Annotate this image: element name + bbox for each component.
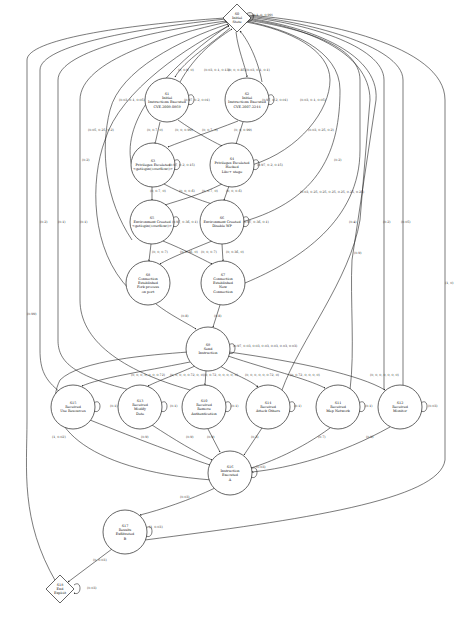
transition-probability-label: (0.7) bbox=[318, 435, 326, 439]
transition-probability-label: (0.9) bbox=[186, 435, 194, 439]
state-label: on port bbox=[142, 290, 155, 294]
transition-probability-label: (0.03) bbox=[87, 586, 97, 590]
transition-probability-label: (0.03, 0.1, 0.13) bbox=[204, 68, 230, 72]
state-label: Use Resources bbox=[60, 409, 86, 413]
transition-probability-label: (1, 0.02) bbox=[52, 435, 66, 439]
transition-probability-label: (0.05, 0.25, 0.2) bbox=[88, 128, 114, 132]
transition-probability-label: (0.03, 0.25, 0.2) bbox=[308, 128, 334, 132]
state-node-s12: S12ReceivedMonitor bbox=[378, 385, 422, 429]
edge bbox=[168, 121, 238, 147]
edge bbox=[228, 356, 325, 388]
transition-probability-label: (0.97, 0.2, 0.15) bbox=[257, 163, 283, 167]
transition-probability-label: (0, 0.7, 0) bbox=[150, 189, 166, 193]
transition-probability-label: (0.9) bbox=[207, 435, 215, 439]
transition-probability-label: (0.97, 0.2, 0.01) bbox=[262, 98, 288, 102]
transition-probability-label: (0, 0.9, 0) bbox=[178, 68, 194, 72]
edge bbox=[236, 122, 243, 144]
transition-probability-label: (0.9) bbox=[141, 435, 149, 439]
state-node-s10: S10ReceivedRemoveAuthentication bbox=[182, 385, 226, 429]
transition-probability-label: (0.05) bbox=[401, 220, 411, 224]
edge bbox=[222, 244, 223, 261]
transition-probability-label: (0.03, 0.1, 0.1) bbox=[246, 68, 270, 72]
state-node-s16: S16InstructionExecutedA bbox=[208, 451, 252, 495]
edge bbox=[178, 120, 222, 146]
transition-probability-label: (0.2) bbox=[40, 220, 48, 224]
transition-probability-label: (0.03) bbox=[256, 465, 266, 469]
transition-probability-label: (0.2) bbox=[383, 220, 391, 224]
transition-probability-label: (0.03) bbox=[180, 495, 190, 499]
transition-probability-label: (0.97, 0.36, 0.1) bbox=[243, 220, 269, 224]
transition-probability-label: (0.1) bbox=[294, 404, 302, 408]
state-label: Libc+ stage bbox=[222, 170, 243, 174]
transition-probability-label: (0, 0.72, 0, 0, 0, 0) bbox=[290, 373, 320, 377]
transition-probability-label: (0.3) bbox=[251, 435, 259, 439]
state-node-s0: S0InitialState bbox=[223, 4, 251, 32]
transition-probability-label: (0, 0, 0.6) bbox=[226, 189, 242, 193]
transition-probability-label: (0, 0.7, 0) bbox=[202, 128, 218, 132]
transition-probability-label: (0, 0.7, 0) bbox=[202, 189, 218, 193]
state-label: Exploit bbox=[54, 591, 67, 595]
transition-probability-label: (0.9) bbox=[354, 251, 362, 255]
state-label: Connection bbox=[213, 290, 233, 294]
transition-probability-label: (0.1) bbox=[58, 220, 66, 224]
edge bbox=[68, 549, 112, 582]
state-label: Disable WP bbox=[212, 224, 232, 228]
state-diagram: S0InitialStateS1InitialInstructions Exec… bbox=[0, 0, 475, 626]
state-node-s1: S1InitialInstructions ExecutedCVE-2009-0… bbox=[145, 78, 189, 122]
state-node-s14: S14ReceivedAttack Others bbox=[246, 385, 290, 429]
transition-probability-label: (0, 0.03) bbox=[93, 558, 107, 562]
edge bbox=[240, 31, 262, 82]
edge bbox=[229, 352, 385, 390]
edge bbox=[180, 29, 232, 82]
transition-probability-label: (0.8) bbox=[181, 314, 189, 318]
transition-probability-label: (0.1) bbox=[110, 404, 118, 408]
transition-probability-label: (0.03) bbox=[428, 404, 438, 408]
transition-probability-label: (0, 0, 0.85) bbox=[228, 68, 246, 72]
transition-probability-label: (0.97, 0.2, 0.15) bbox=[169, 163, 195, 167]
transition-probability-label: (0.1) bbox=[231, 404, 239, 408]
transition-probability-label: (0, 0, 0.6) bbox=[179, 189, 195, 193]
state-label: CVE-2009-0869 bbox=[153, 105, 180, 109]
state-label: Instruction bbox=[198, 351, 218, 355]
transition-probability-label: (0.03, 0.25, 0.25, 0.25, 0.25, 0.25, 0.2… bbox=[300, 190, 364, 194]
transition-probability-label: (0.1) bbox=[365, 404, 373, 408]
transition-probability-label: (0, 0.7, 0) bbox=[147, 128, 163, 132]
state-label: <getlogin()overflow()> bbox=[133, 167, 173, 171]
edge bbox=[251, 428, 330, 468]
transition-probability-label: (0, 0, 0.7) bbox=[152, 250, 168, 254]
transition-probability-label: (0, 0, 0, 0, 0, 0, 0.72) bbox=[131, 373, 165, 377]
state-label: Authentication bbox=[190, 412, 217, 416]
transition-probability-label: (0.2) bbox=[82, 158, 90, 162]
edge bbox=[156, 304, 196, 329]
transition-probability-label: (0, 0, 0, 0, 0.72, 0, 0) bbox=[170, 373, 204, 377]
state-label: <getlogin()overflow()> bbox=[132, 224, 172, 228]
transition-probability-label: (0.2) bbox=[334, 158, 342, 162]
transition-probability-label: (0, 0, 0.99) bbox=[175, 128, 193, 132]
state-node-s9: S9SendInstruction bbox=[186, 327, 230, 371]
state-node-s17: S17ResultsExfiltratedB bbox=[103, 510, 147, 554]
transition-probability-label: (0.97, 0.2, 0.01) bbox=[184, 98, 210, 102]
state-node-s15: S15ReceivedUse Resources bbox=[51, 385, 95, 429]
state-node-s13: S13ReceivedModifyData bbox=[118, 385, 162, 429]
edge bbox=[208, 429, 220, 452]
state-node-s6: S6Environment CreatedDisable WP bbox=[200, 200, 244, 244]
state-label: Monitor bbox=[393, 409, 407, 413]
state-node-s8: S8ConnectionEstablishedFork processon po… bbox=[126, 261, 170, 305]
edge bbox=[155, 122, 160, 144]
transition-probability-label: (0, 0.72, 0, 0, 0, 0, 0) bbox=[204, 373, 238, 377]
transition-probability-label: (0.03, 0.1, 0.05) bbox=[119, 98, 145, 102]
state-node-s7: S7ConnectionEstablishedNewConnection bbox=[201, 261, 245, 305]
edge bbox=[244, 428, 262, 455]
edge bbox=[246, 18, 376, 390]
transition-probability-label: (1, 0.03) bbox=[149, 525, 163, 529]
nodes: S0InitialStateS1InitialInstructions Exec… bbox=[46, 4, 422, 603]
transition-probability-label: (0.03, 0.1, 0.05) bbox=[300, 98, 326, 102]
transition-probability-label: (0.97, 0.03, 0.03, 0.03, 0.03, 0.03, 0.0… bbox=[233, 344, 297, 348]
state-label: A bbox=[228, 478, 232, 482]
transition-probability-label: (0.1) bbox=[170, 404, 178, 408]
transition-probability-label: (0, 0, 0, 0, 0, 0.72, 0) bbox=[245, 373, 279, 377]
state-node-s5: S5Environment Created<getlogin()overflow… bbox=[130, 200, 174, 244]
edge bbox=[145, 15, 445, 540]
transition-probability-label: (0.9) bbox=[366, 435, 374, 439]
edge bbox=[245, 20, 360, 283]
